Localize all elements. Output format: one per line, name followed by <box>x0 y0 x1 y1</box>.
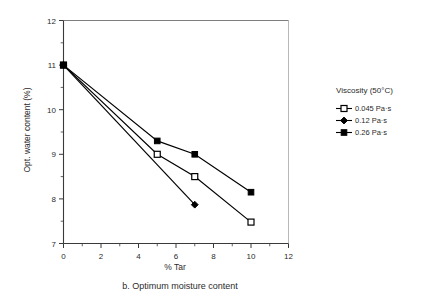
x-tick-label: 4 <box>136 252 141 261</box>
open-square-icon <box>336 103 352 114</box>
x-tick-label: 2 <box>99 252 104 261</box>
x-tick-label: 8 <box>211 252 216 261</box>
y-tick-label: 11 <box>48 61 57 70</box>
x-tick-label: 0 <box>61 252 66 261</box>
legend-marker-glyph <box>341 117 348 124</box>
legend-entry-label: 0.045 Pa·s <box>355 104 391 113</box>
x-tick-label: 6 <box>174 252 179 261</box>
x-tick-label: 10 <box>247 252 256 261</box>
legend-entry[interactable]: 0.26 Pa·s <box>336 127 428 138</box>
y-tick-label: 12 <box>47 17 56 26</box>
legend-title: Viscosity (50°C) <box>336 86 428 95</box>
series-line <box>64 65 195 205</box>
legend-entry-list: 0.045 Pa·s0.12 Pa·s0.26 Pa·s <box>336 103 428 138</box>
data-point <box>248 189 254 195</box>
legend-marker-glyph <box>341 106 347 112</box>
data-point <box>154 138 160 144</box>
x-tick-label: 12 <box>284 252 293 261</box>
x-axis-title: % Tar <box>60 262 290 272</box>
data-point <box>61 62 67 68</box>
y-tick-label: 8 <box>52 195 57 204</box>
legend-entry[interactable]: 0.12 Pa·s <box>336 115 428 126</box>
data-point <box>192 174 198 180</box>
series-group <box>61 62 254 195</box>
legend-entry-label: 0.26 Pa·s <box>355 128 387 137</box>
series-group <box>60 62 198 208</box>
data-point <box>248 219 254 225</box>
y-axis-title: Opt. water content (%) <box>22 60 32 200</box>
series-line <box>64 65 252 192</box>
figure-container: 789101112024681012 Opt. water content (%… <box>0 0 428 298</box>
chart-legend: Viscosity (50°C) 0.045 Pa·s0.12 Pa·s0.26… <box>336 86 428 139</box>
y-tick-label: 7 <box>52 240 57 249</box>
y-tick-label: 10 <box>47 106 56 115</box>
data-point <box>154 151 160 157</box>
filled-square-icon <box>336 127 352 138</box>
y-tick-label: 9 <box>52 150 57 159</box>
figure-caption: b. Optimum moisture content <box>30 281 330 291</box>
legend-entry-label: 0.12 Pa·s <box>355 116 387 125</box>
legend-marker-glyph <box>341 130 347 136</box>
data-point <box>192 152 198 158</box>
chart-plot-area: 789101112024681012 <box>0 0 428 298</box>
filled-diamond-icon <box>336 115 352 126</box>
legend-entry[interactable]: 0.045 Pa·s <box>336 103 428 114</box>
